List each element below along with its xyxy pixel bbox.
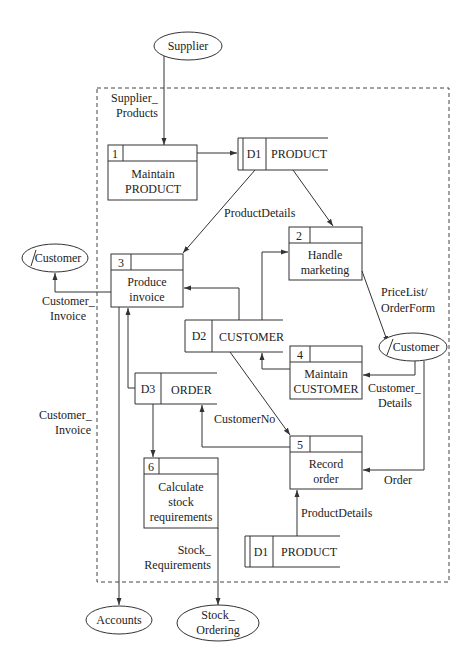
svg-text:5: 5 (297, 438, 303, 452)
svg-text:6: 6 (148, 460, 154, 474)
svg-text:stock: stock (168, 495, 193, 509)
process-1-maintain-product[interactable]: 1 Maintain PRODUCT (108, 145, 197, 200)
external-entity-supplier[interactable]: Supplier (154, 32, 222, 60)
flow-d3-p3 (128, 308, 135, 388)
flow-p3-customer-invoice (55, 273, 111, 292)
flow-label: Order (384, 473, 412, 487)
data-store-d2-customer[interactable]: D2 CUSTOMER (185, 320, 284, 352)
svg-text:Maintain: Maintain (304, 367, 347, 381)
svg-text:1: 1 (112, 147, 118, 161)
flow-p4-d2 (262, 353, 290, 369)
svg-text:Customer: Customer (35, 251, 82, 265)
external-entity-stock-ordering[interactable]: Stock_ Ordering (177, 605, 259, 641)
svg-text:Stock_: Stock_ (201, 608, 235, 622)
svg-text:ORDER: ORDER (171, 383, 212, 397)
process-3-produce-invoice[interactable]: 3 Produce invoice (111, 254, 183, 307)
flow-d2-p3 (184, 288, 239, 320)
flow-label: ProductDetails (301, 506, 373, 520)
svg-text:Customer: Customer (393, 340, 440, 354)
flow-order (363, 361, 424, 470)
process-4-maintain-customer[interactable]: 4 Maintain CUSTOMER (290, 346, 362, 399)
flow-label: Products (116, 106, 158, 120)
flow-label: Invoice (50, 309, 86, 323)
svg-text:D2: D2 (192, 329, 207, 343)
svg-text:marketing: marketing (301, 263, 350, 277)
data-flow-diagram: Supplier Supplier_ Products 1 Maintain P… (0, 0, 476, 669)
svg-text:4: 4 (297, 348, 303, 362)
svg-text:requirements: requirements (150, 510, 213, 524)
flow-label: OrderForm (381, 301, 436, 315)
flow-label: PriceList/ (381, 285, 428, 299)
flow-label: Customer_ (39, 408, 93, 422)
flow-label: Stock_ (178, 543, 212, 557)
flow-customer-details (363, 361, 415, 375)
external-entity-accounts[interactable]: Accounts (86, 606, 152, 634)
data-store-d1-product-duplicate[interactable]: D1 PRODUCT (245, 536, 340, 567)
flow-label: Customer_ (368, 381, 422, 395)
svg-text:Supplier: Supplier (168, 39, 209, 53)
svg-text:PRODUCT: PRODUCT (281, 545, 338, 559)
svg-text:D1: D1 (254, 545, 269, 559)
external-entity-customer-left[interactable]: Customer (22, 244, 88, 272)
flow-label: ProductDetails (224, 206, 296, 220)
flow-label: Invoice (55, 423, 91, 437)
flow-label: Customer_ (42, 294, 96, 308)
svg-text:CUSTOMER: CUSTOMER (219, 330, 284, 344)
external-entity-customer-right[interactable]: Customer (379, 333, 447, 361)
process-6-calculate-stock-requirements[interactable]: 6 Calculate stock requirements (144, 458, 218, 528)
svg-text:Record: Record (309, 457, 344, 471)
flow-label: CustomerNo (214, 412, 275, 426)
svg-text:3: 3 (118, 256, 124, 270)
svg-text:Produce: Produce (127, 275, 166, 289)
svg-text:2: 2 (296, 229, 302, 243)
svg-text:Ordering: Ordering (196, 623, 239, 637)
svg-text:CUSTOMER: CUSTOMER (293, 382, 358, 396)
svg-text:D1: D1 (247, 147, 262, 161)
svg-text:order: order (313, 472, 338, 486)
process-5-record-order[interactable]: 5 Record order (290, 436, 362, 489)
flow-d2-p2 (262, 252, 288, 320)
data-store-d1-product[interactable]: D1 PRODUCT (238, 138, 328, 170)
svg-text:Handle: Handle (308, 248, 343, 262)
svg-text:PRODUCT: PRODUCT (125, 182, 182, 196)
svg-text:PRODUCT: PRODUCT (271, 147, 328, 161)
data-store-d3-order[interactable]: D3 ORDER (135, 373, 217, 404)
svg-text:D3: D3 (141, 382, 156, 396)
svg-text:Accounts: Accounts (96, 613, 142, 627)
svg-text:Calculate: Calculate (158, 480, 203, 494)
svg-text:invoice: invoice (129, 290, 164, 304)
process-2-handle-marketing[interactable]: 2 Handle marketing (289, 227, 362, 280)
flow-label: Requirements (144, 558, 211, 572)
flow-d1-p2 (293, 170, 333, 226)
svg-text:Maintain: Maintain (131, 167, 174, 181)
flow-label: Details (378, 396, 412, 410)
flow-label: Supplier_ (111, 91, 159, 105)
